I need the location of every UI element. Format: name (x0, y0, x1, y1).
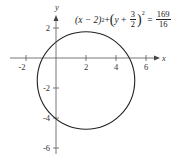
eq-plus: + (119, 15, 129, 25)
circle-curve (37, 32, 135, 130)
x-tick-label: -2 (18, 62, 25, 72)
eq-frac-den: 2 (131, 20, 135, 29)
y-tick-label: -4 (43, 113, 51, 123)
eq-equals: = (145, 15, 155, 25)
y-tick-label: 2 (46, 23, 50, 33)
eq-rhs-fraction: 16916 (156, 10, 171, 29)
eq-paren: ) (137, 15, 142, 25)
y-tick-label: -6 (43, 143, 50, 153)
y-tick-label: -2 (43, 83, 50, 93)
eq-rhs-den: 16 (159, 20, 168, 29)
y-axis-label: y (54, 2, 59, 12)
x-tick-label: 2 (84, 62, 88, 72)
x-tick-label: 6 (144, 62, 148, 72)
y-axis-arrow-icon (54, 15, 59, 21)
eq-term-x: (x − 2) (75, 15, 101, 25)
x-axis-arrow-icon (154, 56, 160, 61)
circle-equation: (x − 2)2+(y + 32)2 = 16916 (75, 10, 172, 29)
x-tick-label: 4 (114, 62, 119, 72)
eq-fraction: 32 (130, 10, 136, 29)
x-axis-label: x (161, 53, 166, 63)
